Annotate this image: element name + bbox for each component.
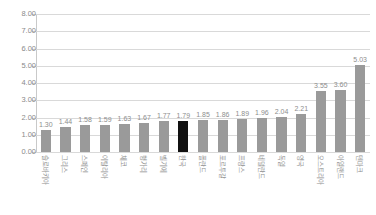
x-axis-category-label: 오스트리아	[317, 155, 324, 185]
bar[interactable]	[139, 123, 149, 152]
bar[interactable]	[335, 90, 345, 152]
bar[interactable]	[41, 130, 51, 152]
bar[interactable]	[218, 120, 228, 152]
bar-slot[interactable]: 1.86	[218, 14, 228, 152]
bar-slot[interactable]: 1.85	[198, 14, 208, 152]
y-axis-tick-label: 4.00	[6, 79, 36, 87]
bar[interactable]	[60, 127, 70, 152]
bar-slot[interactable]: 1.44	[60, 14, 70, 152]
x-axis-category-label: 한국	[179, 155, 186, 167]
y-axis-tick-label: 2.00	[6, 114, 36, 122]
x-axis-category-label: 그리스	[61, 155, 68, 173]
bar-slot[interactable]: 1.30	[41, 14, 51, 152]
bar-slot[interactable]: 1.77	[159, 14, 169, 152]
x-axis-category-label: 포르투갈	[219, 155, 226, 179]
y-axis-tick-label: 5.00	[6, 62, 36, 70]
bar-value-label: 1.77	[157, 112, 171, 120]
y-axis-tick-label: 3.00	[6, 96, 36, 104]
x-axis-category-label: 벨기에	[160, 155, 167, 173]
bar-slot[interactable]: 1.96	[257, 14, 267, 152]
bar[interactable]	[316, 91, 326, 152]
y-axis-tick-label: 7.00	[6, 27, 36, 35]
bar-slot[interactable]: 1.59	[100, 14, 110, 152]
bar-slot[interactable]: 1.63	[119, 14, 129, 152]
bar[interactable]	[198, 120, 208, 152]
y-axis-tick-label: 6.00	[6, 45, 36, 53]
bar[interactable]	[119, 124, 129, 152]
bar-value-label: 3.60	[334, 81, 348, 89]
bar-value-label: 1.44	[59, 118, 73, 126]
bar-value-label: 1.96	[255, 109, 269, 117]
bar-slot[interactable]: 1.58	[80, 14, 90, 152]
plot-area: 1.301.441.581.591.631.671.771.791.851.86…	[36, 14, 370, 152]
bar-slot[interactable]: 3.55	[316, 14, 326, 152]
gridline	[36, 152, 370, 153]
bar-value-label: 1.30	[39, 121, 53, 129]
bar-slot[interactable]: 1.89	[237, 14, 247, 152]
x-axis-category-label: 이탈리아	[101, 155, 108, 179]
x-axis-category-label: 독일	[278, 155, 285, 167]
bar-value-label: 1.67	[137, 114, 151, 122]
bar-value-label: 1.58	[78, 116, 92, 124]
y-axis-tick-label: 8.00	[6, 10, 36, 18]
bar-value-label: 2.04	[275, 108, 289, 116]
bar[interactable]	[80, 125, 90, 152]
x-axis-category-label: 프랑스	[238, 155, 245, 173]
bar-value-label: 1.79	[177, 112, 191, 120]
bar-chart: 0.001.002.003.004.005.006.007.008.00 1.3…	[0, 0, 376, 215]
bar-slot[interactable]: 5.03	[355, 14, 365, 152]
x-axis-category-label: 영국	[297, 155, 304, 167]
bar[interactable]	[237, 119, 247, 152]
bar-value-label: 1.63	[118, 115, 132, 123]
bar-value-label: 1.89	[235, 110, 249, 118]
x-axis-category-label: 체코	[120, 155, 127, 167]
bar[interactable]	[276, 117, 286, 152]
bar[interactable]	[355, 65, 365, 152]
x-axis-category-label: 스페인	[81, 155, 88, 173]
x-axis-category-label: 헝가리	[140, 155, 147, 173]
bar[interactable]	[159, 121, 169, 152]
bar-value-label: 3.55	[314, 82, 328, 90]
x-axis-category-label: 네덜란드	[258, 155, 265, 179]
bar-value-label: 5.03	[353, 56, 367, 64]
bar-value-label: 1.86	[216, 111, 230, 119]
bar-value-label: 1.85	[196, 111, 210, 119]
x-axis-category-label: 아일랜드	[337, 155, 344, 179]
x-axis-category-label: 폴란드	[199, 155, 206, 173]
bar-value-label: 2.21	[294, 105, 308, 113]
bar[interactable]	[257, 118, 267, 152]
x-axis-category-label: 슬로바키아	[42, 155, 49, 185]
bar-slot[interactable]: 3.60	[335, 14, 345, 152]
bar[interactable]	[296, 114, 306, 152]
bar[interactable]	[100, 125, 110, 152]
bar-slot[interactable]: 1.67	[139, 14, 149, 152]
bar[interactable]	[178, 121, 188, 152]
bar-slot[interactable]: 2.21	[296, 14, 306, 152]
bar-value-label: 1.59	[98, 116, 112, 124]
y-axis-tick-label: 0.00	[6, 148, 36, 156]
bar-slot[interactable]: 2.04	[276, 14, 286, 152]
bar-slot[interactable]: 1.79	[178, 14, 188, 152]
x-axis-category-label: 덴마크	[356, 155, 363, 173]
y-axis-tick-label: 1.00	[6, 131, 36, 139]
